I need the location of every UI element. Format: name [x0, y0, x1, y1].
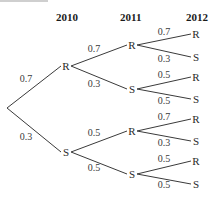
header-2011: 2011	[120, 11, 141, 23]
probability-label: 0.5	[88, 127, 101, 138]
node-2010-s: S	[63, 146, 69, 158]
probability-label: 0.7	[20, 73, 33, 84]
node-2012-s: S	[193, 51, 199, 63]
probability-label: 0.3	[158, 53, 171, 64]
probability-label: 0.7	[158, 111, 171, 122]
probability-label: 0.5	[158, 179, 171, 190]
node-2011-r: R	[128, 125, 136, 137]
node-2011-s: S	[129, 83, 135, 95]
node-2012-s: S	[193, 93, 199, 105]
header-2012: 2012	[186, 11, 209, 23]
probability-label: 0.5	[88, 162, 101, 173]
node-2012-r: R	[192, 71, 200, 83]
edge-root-to-l1-1	[7, 108, 61, 152]
node-2012-r: R	[192, 28, 200, 40]
year-headers: 2010 2011 2012	[56, 11, 209, 23]
node-2011-s: S	[129, 168, 135, 180]
probability-label: 0.3	[158, 137, 171, 148]
node-2011-r: R	[128, 39, 136, 51]
probability-label: 0.7	[88, 43, 101, 54]
probability-tree-diagram: 2010 2011 2012 R0.7S0.3R0.7S0.3R0.5S0.5R…	[0, 0, 212, 200]
probability-label: 0.3	[20, 131, 33, 142]
node-2012-s: S	[193, 135, 199, 147]
probability-label: 0.7	[158, 26, 171, 37]
top-cut-text-fragment	[0, 0, 48, 2]
probability-label: 0.3	[88, 78, 101, 89]
edge-root-to-l1-0	[7, 66, 61, 108]
probability-label: 0.5	[158, 153, 171, 164]
node-2010-r: R	[62, 60, 70, 72]
node-2012-s: S	[193, 178, 199, 190]
node-2012-r: R	[192, 155, 200, 167]
header-2010: 2010	[56, 11, 79, 23]
probability-label: 0.5	[158, 95, 171, 106]
node-2012-r: R	[192, 113, 200, 125]
probability-label: 0.5	[158, 69, 171, 80]
